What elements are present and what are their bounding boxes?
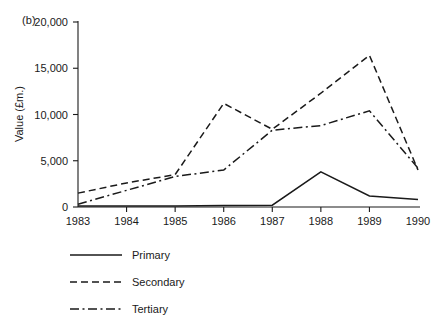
y-tick-label: 20,000 [34, 16, 68, 28]
series-line-tertiary [78, 111, 418, 204]
line-chart-plot: 05,00010,00015,00020,000 198319841985198… [0, 0, 444, 315]
panel-label: (b) [22, 14, 36, 26]
x-tick-label: 1983 [66, 215, 90, 227]
y-axis-tick-group: 05,00010,00015,00020,000 [34, 16, 78, 213]
x-tick-label: 1988 [309, 215, 333, 227]
y-tick-label: 5,000 [40, 155, 68, 167]
x-tick-label: 1989 [357, 215, 381, 227]
legend-item-tertiary[interactable]: Tertiary [70, 303, 169, 315]
legend-label: Primary [132, 249, 170, 261]
data-series-group [78, 55, 418, 206]
x-tick-label: 1987 [260, 215, 284, 227]
legend-item-primary[interactable]: Primary [70, 249, 170, 261]
x-tick-label: 1990 [406, 215, 430, 227]
chart-legend: PrimarySecondaryTertiary [70, 249, 185, 315]
y-tick-label: 15,000 [34, 62, 68, 74]
y-tick-label: 10,000 [34, 109, 68, 121]
y-tick-label: 0 [62, 201, 68, 213]
legend-label: Secondary [132, 276, 185, 288]
series-line-secondary [78, 55, 418, 193]
x-tick-label: 1986 [211, 215, 235, 227]
y-axis-label: Value (£m.) [13, 64, 25, 164]
series-line-primary [78, 172, 418, 206]
legend-label: Tertiary [132, 303, 169, 315]
x-axis-tick-group: 19831984198519861987198819891990 [66, 207, 430, 227]
x-tick-label: 1985 [163, 215, 187, 227]
chart-figure: (b) Value (£m.) 05,00010,00015,00020,000… [0, 0, 444, 315]
legend-item-secondary[interactable]: Secondary [70, 276, 185, 288]
x-tick-label: 1984 [114, 215, 138, 227]
